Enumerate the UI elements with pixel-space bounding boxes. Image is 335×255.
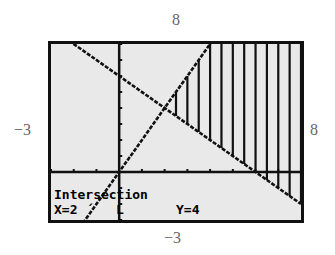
status-title: Intersection [54,187,148,202]
cursor-crosshair: L [116,202,124,217]
window-xmax-label: 8 [310,122,318,138]
window-ymax-label: 8 [172,12,180,28]
cursor-mark: ´ [86,202,94,217]
calculator-screen: Intersection X=2 ´ L Y=4 [48,41,304,223]
status-x-value: X=2 [54,202,77,217]
status-y-value: Y=4 [176,202,200,217]
graph-plot: Intersection X=2 ´ L Y=4 [48,41,304,223]
window-ymin-label: −3 [164,230,181,246]
window-xmin-label: −3 [14,122,31,138]
